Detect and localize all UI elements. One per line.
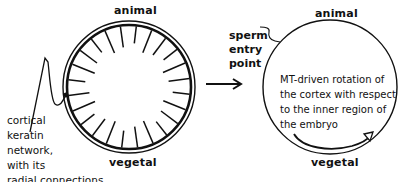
radial-spoke — [153, 38, 166, 55]
radial-spoke — [105, 31, 115, 53]
transition-arrow-icon — [206, 79, 241, 89]
radial-spoke — [69, 93, 90, 96]
radial-spoke — [156, 122, 167, 135]
sperm-entry-line: point — [229, 57, 268, 71]
description-line: the cortex with respect — [280, 87, 396, 102]
radial-spoke — [164, 49, 177, 60]
right-vegetal-pole-label: vegetal — [311, 156, 359, 169]
description-line: the embryo — [280, 117, 396, 132]
radial-spoke — [143, 30, 152, 52]
radial-spoke — [68, 80, 85, 82]
keratin-network-annotation: cortical keratin network, with its radia… — [7, 113, 103, 182]
annotation-line: network, — [7, 143, 103, 158]
radial-spoke — [72, 64, 94, 73]
sperm-entry-line: sperm — [229, 29, 268, 43]
description-line: to the inner region of — [280, 102, 396, 117]
radial-spoke — [120, 27, 123, 48]
radial-spoke — [106, 121, 115, 143]
radial-spoke — [80, 50, 97, 63]
sperm-entry-line: entry — [229, 43, 268, 57]
radial-spoke — [163, 63, 185, 73]
description-line: MT-driven rotation of — [280, 72, 396, 87]
radial-spoke — [91, 39, 102, 52]
radial-spoke — [163, 101, 185, 110]
right-animal-pole-label: animal — [315, 7, 358, 20]
sperm-entry-point-label: sperm entry point — [229, 29, 268, 71]
radial-spoke — [173, 92, 190, 94]
radial-spoke — [144, 121, 154, 143]
radial-spoke — [134, 26, 136, 43]
radial-spoke — [169, 78, 190, 81]
radial-spoke — [135, 127, 138, 148]
annotation-line: keratin — [7, 128, 103, 143]
annotation-line: with its — [7, 158, 103, 173]
left-animal-pole-label: animal — [114, 4, 157, 17]
radial-spoke — [122, 131, 124, 148]
annotation-line: radial connections — [7, 173, 103, 182]
annotation-line: cortical — [7, 113, 103, 128]
radial-spoke — [73, 102, 95, 112]
radial-spoke — [161, 111, 178, 124]
rotation-description: MT-driven rotation of the cortex with re… — [280, 72, 396, 132]
left-vegetal-pole-label: vegetal — [109, 156, 157, 169]
